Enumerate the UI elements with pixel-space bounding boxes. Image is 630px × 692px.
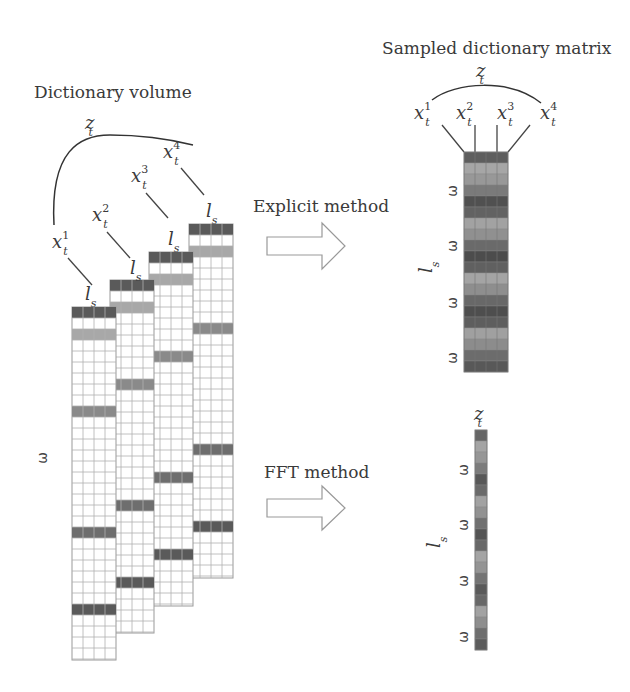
label-zt-fft: zt xyxy=(474,403,488,428)
label-zt-left: zt xyxy=(85,112,99,137)
leader-x1 xyxy=(68,258,92,285)
leader-x4 xyxy=(181,168,204,195)
label-ls-1: ls xyxy=(85,283,96,308)
right-leader-x1 xyxy=(442,125,464,152)
omega-fft-4: ω xyxy=(455,631,471,643)
omega-left: ω xyxy=(34,452,50,464)
fft-arrow-icon xyxy=(267,486,345,530)
label-x1-left: x1t xyxy=(52,231,74,256)
omega-matrix-1: ω xyxy=(444,185,460,197)
label-x3-right: x3t xyxy=(497,102,519,127)
label-x4-right: x4t xyxy=(540,102,562,127)
label-x3-left: x3t xyxy=(131,165,153,190)
omega-matrix-4: ω xyxy=(444,352,460,364)
label-ls-fft: ls xyxy=(423,537,448,548)
volume-column xyxy=(110,280,154,633)
label-ls-3: ls xyxy=(168,228,179,253)
omega-matrix-2: ω xyxy=(444,240,460,252)
omega-fft-1: ω xyxy=(455,464,471,476)
label-x4-left: x4t xyxy=(163,141,185,166)
right-zt-arc xyxy=(432,85,541,103)
omega-fft-3: ω xyxy=(455,575,471,587)
sampled-dictionary-matrix xyxy=(464,152,508,372)
label-ls-right-matrix: ls xyxy=(415,262,440,273)
label-x2-right: x2t xyxy=(456,102,478,127)
right-leader-x4 xyxy=(508,125,530,152)
label-ls-4: ls xyxy=(206,200,217,225)
diagram-lines xyxy=(0,0,630,692)
leader-x2 xyxy=(107,232,130,258)
label-x1-right: x1t xyxy=(414,102,436,127)
volume-column xyxy=(72,307,116,660)
label-ls-2: ls xyxy=(130,257,141,282)
omega-fft-2: ω xyxy=(455,519,471,531)
explicit-arrow-icon xyxy=(267,223,345,269)
label-x2-left: x2t xyxy=(92,204,114,229)
fft-vector xyxy=(475,430,487,650)
volume-column xyxy=(149,252,193,606)
label-zt-right: zt xyxy=(476,60,490,85)
volume-column xyxy=(189,224,233,578)
leader-x3 xyxy=(146,193,168,218)
omega-matrix-3: ω xyxy=(444,297,460,309)
